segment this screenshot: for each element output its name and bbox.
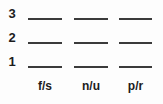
row-label-1: 1 [4,54,20,70]
row-label-3: 3 [4,6,20,22]
answer-blank-row1-col-fs[interactable] [28,66,62,68]
row-label-2: 2 [4,30,20,46]
column-header-nu: n/u [74,78,108,94]
answer-blank-row3-col-pr[interactable] [119,18,152,20]
answer-blank-row2-col-nu[interactable] [74,42,108,44]
answer-blank-row1-col-pr[interactable] [119,66,152,68]
column-header-fs: f/s [28,78,62,94]
answer-blank-row1-col-nu[interactable] [74,66,108,68]
worksheet-row: 2 [0,30,163,52]
answer-blank-row3-col-fs[interactable] [28,18,62,20]
worksheet-row: 1 [0,54,163,76]
column-header-pr: p/r [119,78,152,94]
column-header-row: f/s n/u p/r [0,78,163,98]
worksheet-row: 3 [0,6,163,28]
answer-blank-row2-col-fs[interactable] [28,42,62,44]
answer-blank-row3-col-nu[interactable] [74,18,108,20]
worksheet-grid: 3 2 1 f/s n/u p/r [0,0,163,104]
answer-blank-row2-col-pr[interactable] [119,42,152,44]
